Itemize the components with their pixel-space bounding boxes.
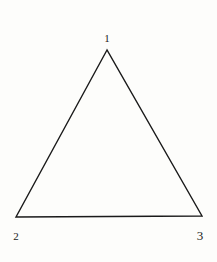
vertex-label-2: 2 <box>13 231 19 242</box>
triangle-shape <box>16 50 202 217</box>
vertex-label-1: 1 <box>104 33 110 44</box>
vertex-label-3: 3 <box>197 229 204 242</box>
